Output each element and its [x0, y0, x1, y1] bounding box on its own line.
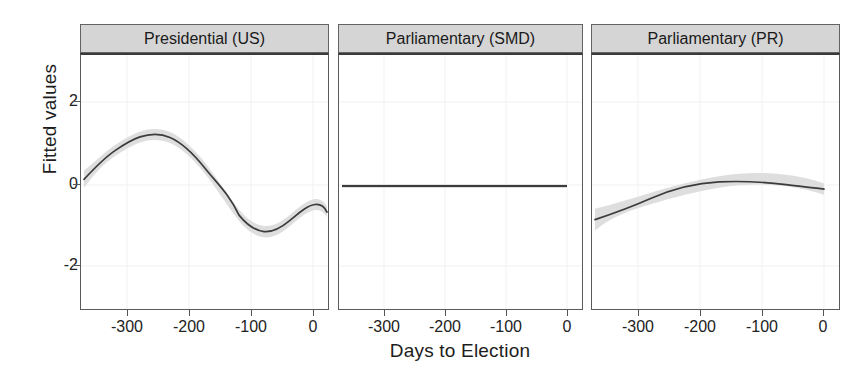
confidence-ribbon-parliamentary-pr [595, 173, 824, 230]
confidence-ribbon-presidential-us [84, 129, 327, 238]
panel-title-parliamentary-pr: Parliamentary (PR) [647, 30, 783, 48]
x-tick-label-p1-minus100: -100 [226, 318, 276, 336]
x-tick-mark-p1-minus300 [127, 310, 128, 316]
x-tick-label-p1-zero: 0 [288, 318, 338, 336]
x-tick-mark-p1-minus100 [251, 310, 252, 316]
panel-parliamentary-smd: Parliamentary (SMD) [338, 24, 583, 310]
x-tick-mark-p3-minus300 [638, 310, 639, 316]
panel-title-parliamentary-smd: Parliamentary (SMD) [386, 30, 535, 48]
x-tick-label-p3-minus200: -200 [675, 318, 725, 336]
x-tick-label-p1-minus200: -200 [164, 318, 214, 336]
x-tick-label-p3-minus300: -300 [613, 318, 663, 336]
plot-area-parliamentary-pr [591, 53, 840, 310]
gridlines-presidential-us [81, 55, 328, 310]
x-tick-mark-p2-zero [567, 310, 568, 316]
y-tick-mark-minus2 [73, 265, 80, 266]
x-tick-mark-p3-zero [823, 310, 824, 316]
panel-strip-parliamentary-pr: Parliamentary (PR) [591, 24, 840, 53]
x-tick-label-p3-minus100: -100 [737, 318, 787, 336]
x-tick-mark-p1-minus200 [189, 310, 190, 316]
plot-area-parliamentary-smd [338, 53, 583, 310]
y-tick-mark-2 [73, 101, 80, 102]
chart-figure: Fitted values 2 0 -2 Presidential (US) [0, 0, 867, 377]
y-tick-label-minus2: -2 [38, 256, 78, 274]
panel-title-presidential-us: Presidential (US) [144, 30, 265, 48]
x-tick-label-p2-minus300: -300 [359, 318, 409, 336]
x-tick-mark-p3-minus200 [700, 310, 701, 316]
x-tick-mark-p2-minus100 [506, 310, 507, 316]
x-tick-mark-p3-minus100 [762, 310, 763, 316]
x-axis-title: Days to Election [80, 340, 840, 362]
x-tick-label-p2-zero: 0 [542, 318, 592, 336]
gridlines-parliamentary-smd [339, 55, 582, 310]
x-tick-label-p2-minus100: -100 [481, 318, 531, 336]
plot-area-presidential-us [80, 53, 329, 310]
y-axis-title: Fitted values [39, 9, 61, 229]
x-tick-label-p1-minus300: -300 [102, 318, 152, 336]
x-tick-mark-p1-zero [313, 310, 314, 316]
panel-strip-presidential-us: Presidential (US) [80, 24, 329, 53]
y-tick-mark-0 [73, 184, 80, 185]
panel-parliamentary-pr: Parliamentary (PR) [591, 24, 840, 310]
y-tick-label-0: 0 [38, 175, 78, 193]
x-tick-mark-p2-minus200 [445, 310, 446, 316]
y-tick-label-2: 2 [38, 92, 78, 110]
panel-strip-parliamentary-smd: Parliamentary (SMD) [338, 24, 583, 53]
x-tick-label-p3-zero: 0 [798, 318, 848, 336]
panel-presidential-us: Presidential (US) [80, 24, 329, 310]
x-tick-mark-p2-minus300 [384, 310, 385, 316]
x-tick-label-p2-minus200: -200 [420, 318, 470, 336]
